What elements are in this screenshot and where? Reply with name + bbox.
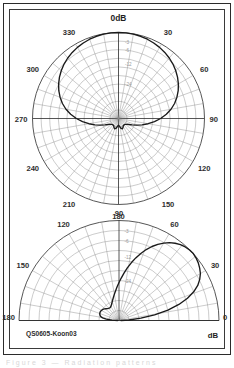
elevation-angle-label-150: 150 bbox=[17, 261, 30, 270]
azimuth-angle-label-300: 300 bbox=[26, 65, 39, 74]
elevation-db-label--6: -6 bbox=[125, 239, 130, 244]
azimuth-angle-label-30: 30 bbox=[164, 28, 172, 37]
azimuth-angle-label-240: 240 bbox=[26, 164, 39, 173]
elevation-angle-label-90: 90 bbox=[115, 209, 123, 218]
azimuth-db-label--12: -12 bbox=[125, 62, 132, 67]
elevation-angle-label-120: 120 bbox=[57, 220, 70, 229]
elevation-angle-label-60: 60 bbox=[170, 220, 178, 229]
elevation-angle-label-180: 180 bbox=[2, 313, 15, 322]
azimuth-db-label--24: -24 bbox=[125, 82, 132, 87]
azimuth-db-label--3: -3 bbox=[125, 40, 130, 45]
azimuth-angle-label-150: 150 bbox=[162, 200, 175, 209]
azimuth-db-label--6: -6 bbox=[125, 48, 130, 53]
azimuth-plot-grid bbox=[33, 33, 205, 205]
elevation-angle-label-0: 0 bbox=[223, 313, 227, 322]
cropped-caption-text: Figure 3 — Radiation patterns bbox=[6, 359, 228, 368]
figure-container: 0dB306090120150180210240270300330 -3-6-1… bbox=[0, 0, 234, 368]
elevation-angle-label-30: 30 bbox=[211, 261, 219, 270]
azimuth-angle-label-270: 270 bbox=[15, 115, 28, 124]
azimuth-angle-label-60: 60 bbox=[200, 65, 208, 74]
elevation-plot-grid bbox=[19, 221, 219, 321]
azimuth-angle-label-210: 210 bbox=[63, 200, 76, 209]
elevation-radial-db-labels: -3-6-12-24 bbox=[125, 229, 132, 283]
azimuth-angle-label-120: 120 bbox=[198, 164, 211, 173]
figure-caption-id: QS0605-Koon03 bbox=[26, 330, 77, 338]
elevation-db-label--12: -12 bbox=[125, 255, 132, 260]
polar-plots-svg: 0dB306090120150180210240270300330 -3-6-1… bbox=[0, 0, 234, 368]
azimuth-angle-label-0dB: 0dB bbox=[111, 13, 127, 23]
azimuth-angle-label-330: 330 bbox=[63, 28, 76, 37]
db-unit-label: dB bbox=[208, 331, 219, 340]
elevation-db-label--24: -24 bbox=[125, 279, 132, 284]
azimuth-angle-label-90: 90 bbox=[210, 115, 218, 124]
elevation-db-label--3: -3 bbox=[125, 229, 130, 234]
